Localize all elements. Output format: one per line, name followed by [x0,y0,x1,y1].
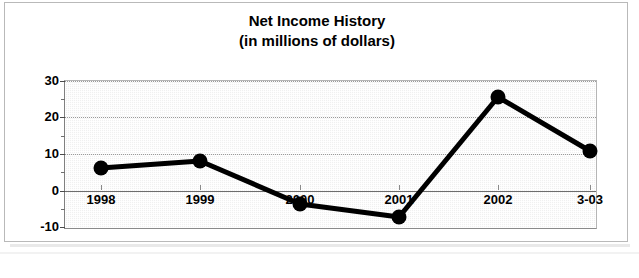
series-polyline [101,97,590,217]
ytick-label-0: 0 [25,184,59,197]
xtick-label-1999: 1999 [186,192,215,207]
ytick-label-30: 30 [25,74,59,87]
xtick-label-3-03: 3-03 [577,192,603,207]
data-point-2001 [392,210,407,225]
xtick-label-1998: 1998 [87,192,116,207]
plot-wrapper: 30 20 10 0 -10 1998 1999 2000 2001 2002 … [5,3,629,243]
data-point-1999 [193,154,208,169]
ytick-label-10: 10 [25,147,59,160]
frame-shadow-secondary [0,252,639,254]
data-series-line [64,80,597,229]
y-axis-tick-labels: 30 20 10 0 -10 [23,80,59,227]
xtick-label-2000: 2000 [286,192,315,207]
xtick-label-2002: 2002 [484,192,513,207]
ytick-label-minus10: -10 [25,220,59,233]
ytick-label-20: 20 [25,110,59,123]
chart-frame: Net Income History (in millions of dolla… [4,2,628,242]
frame-shadow [10,244,630,247]
data-point-2002 [491,90,506,105]
data-point-1998 [94,161,109,176]
xtick-label-2001: 2001 [385,192,414,207]
data-point-3-03 [583,144,598,159]
